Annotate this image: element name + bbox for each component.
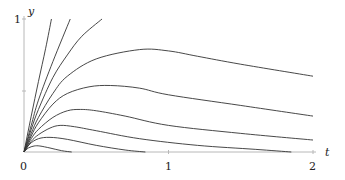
x-tick-label-0: 0 [20, 160, 27, 173]
x-tick-label-1: 1 [165, 160, 172, 173]
y-tick-label-1: 1 [14, 13, 21, 26]
x-axis-label: t [325, 146, 330, 159]
chart: 0 1 2 1 t y [0, 0, 345, 180]
curve-line-8 [24, 137, 145, 152]
curves-group [24, 19, 313, 152]
curve-line-6 [24, 109, 313, 152]
curve-line-9 [24, 146, 72, 152]
x-tick-label-2: 2 [309, 160, 316, 173]
curve-line-1 [24, 19, 51, 152]
y-axis-label: y [27, 5, 35, 18]
